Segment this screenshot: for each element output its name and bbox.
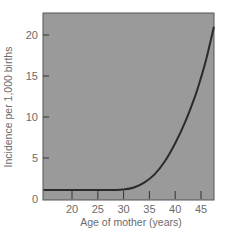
- y-tick-label: 20: [26, 29, 38, 41]
- y-tick-label: 5: [32, 152, 38, 164]
- x-tick-label: 30: [117, 203, 129, 215]
- y-axis-label: Incidence per 1,000 births: [2, 47, 14, 168]
- y-tick-label: 10: [26, 111, 38, 123]
- chart: 202530354045 05101520 Age of mother (yea…: [0, 0, 231, 231]
- x-tick-label: 45: [195, 203, 207, 215]
- x-axis-label: Age of mother (years): [80, 216, 182, 228]
- y-tick-label: 15: [26, 70, 38, 82]
- plot-area: [43, 13, 214, 200]
- y-tick-label: 0: [32, 193, 38, 205]
- x-tick-label: 20: [66, 203, 78, 215]
- x-tick-label: 25: [92, 203, 104, 215]
- x-tick-label: 40: [169, 203, 181, 215]
- x-tick-label: 35: [143, 203, 155, 215]
